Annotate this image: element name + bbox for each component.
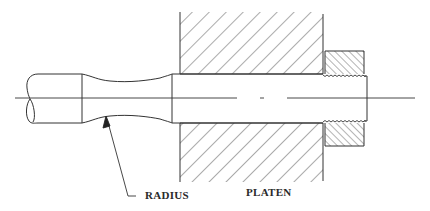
platen: [180, 12, 323, 182]
threaded-nut: [323, 51, 366, 146]
radius-label: RADIUS: [145, 189, 189, 201]
reduced-section-top: [82, 74, 172, 82]
section-drawing: [0, 0, 430, 211]
specimen-shaft: [26, 74, 367, 123]
platen-label: PLATEN: [246, 186, 292, 198]
thread-bottom: [323, 121, 366, 123]
reduced-section-bottom: [82, 115, 172, 123]
radius-leader: [103, 116, 136, 196]
thread-top: [323, 75, 366, 77]
break-symbol: [26, 74, 38, 123]
arrowhead-icon: [103, 116, 110, 128]
